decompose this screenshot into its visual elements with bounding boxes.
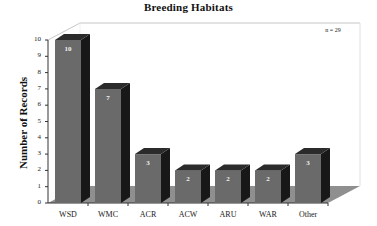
bar-side-face [201, 164, 210, 203]
y-axis-tick-label: 10 [21, 36, 41, 43]
bar-value-label: 2 [175, 175, 201, 183]
y-axis-tick-label: 9 [21, 52, 41, 59]
bar-value-label: 7 [95, 94, 121, 102]
y-axis-tick-label: 1 [21, 183, 41, 190]
chart-figure: Breeding Habitats Number of Records n = … [0, 0, 377, 226]
bar-side-face [121, 83, 130, 203]
bar-value-label: 3 [135, 159, 161, 167]
bar-side-face [161, 148, 170, 203]
y-axis-tick-label: 7 [21, 85, 41, 92]
y-axis-tick-label: 2 [21, 166, 41, 173]
bar-value-label: 2 [255, 175, 281, 183]
plot-area [0, 0, 377, 226]
bar-value-label: 10 [55, 45, 81, 53]
y-axis-tick-label: 4 [21, 134, 41, 141]
y-axis-tick-label: 5 [21, 118, 41, 125]
y-axis-tick-label: 8 [21, 69, 41, 76]
bar-value-label: 2 [215, 175, 241, 183]
bar-front-face [95, 89, 121, 203]
bar-side-face [81, 34, 90, 203]
x-axis-tick-label: Other [285, 210, 331, 219]
bar-value-label: 3 [295, 159, 321, 167]
y-axis-tick-label: 3 [21, 150, 41, 157]
bar-side-face [281, 164, 290, 203]
bar-side-face [321, 148, 330, 203]
bar-side-face [241, 164, 250, 203]
y-axis-tick-label: 6 [21, 101, 41, 108]
y-axis-tick-label: 0 [21, 199, 41, 206]
back-wall-edge [48, 23, 360, 40]
bar-front-face [55, 40, 81, 203]
